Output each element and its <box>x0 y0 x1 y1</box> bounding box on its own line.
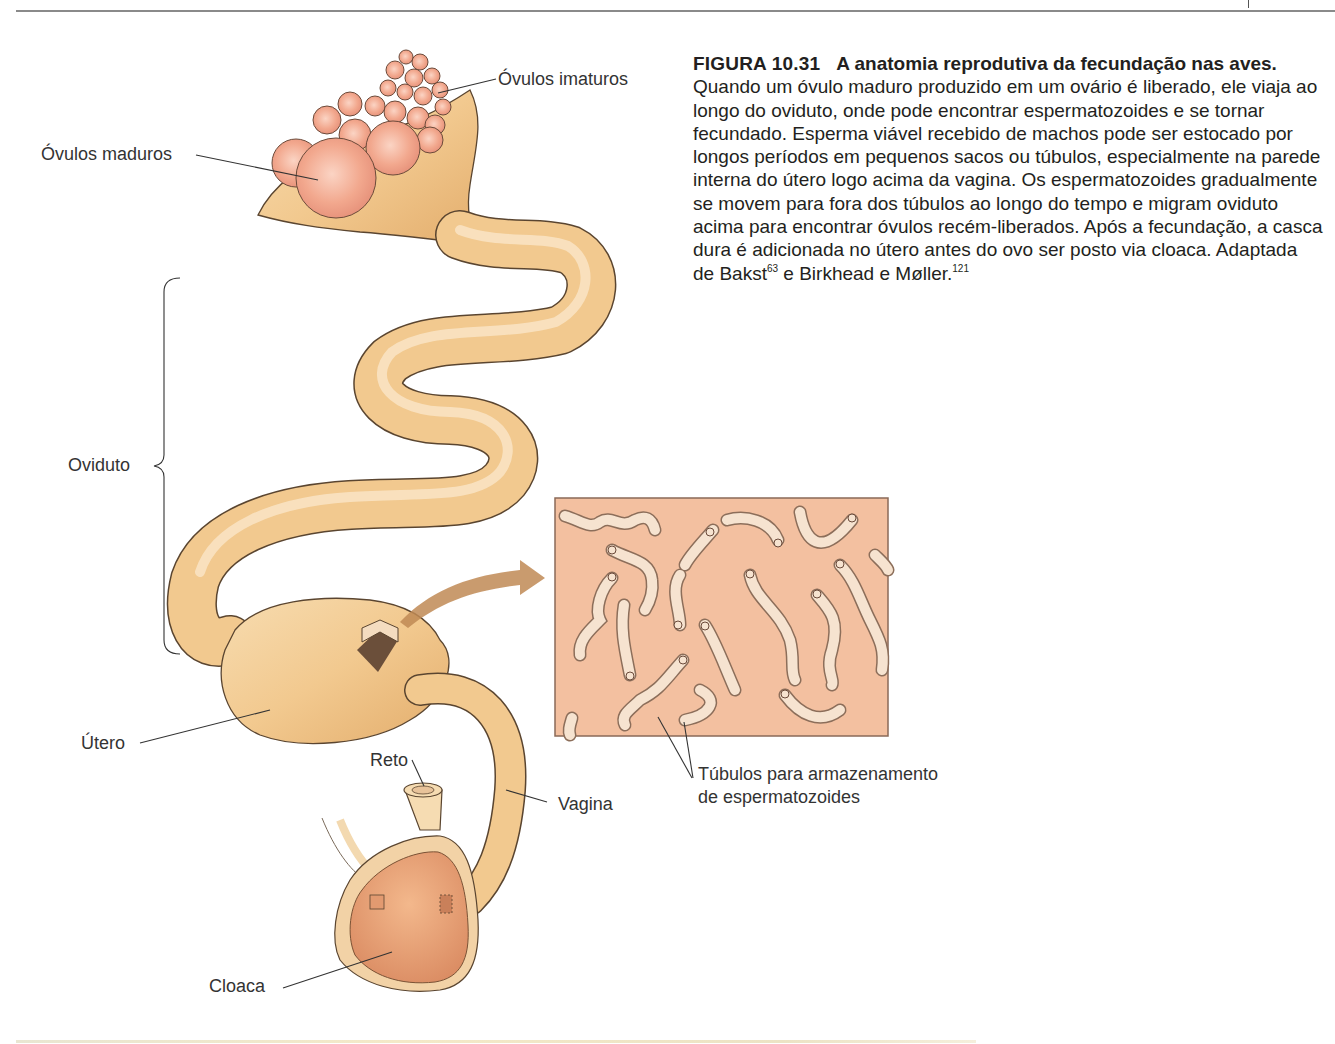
magnify-arrow <box>400 560 545 628</box>
label-vagina: Vagina <box>558 794 613 815</box>
label-utero: Útero <box>81 733 125 754</box>
label-oviduto: Oviduto <box>68 455 130 476</box>
caption-mid: e Birkhead e Møller. <box>778 263 952 284</box>
label-ovulos-maduros: Óvulos maduros <box>41 144 172 165</box>
label-tubulos-line1: Túbulos para armazenamento <box>698 764 938 785</box>
label-ovulos-imaturos: Óvulos imaturos <box>498 69 628 90</box>
citation-ref-1: 63 <box>767 263 778 274</box>
citation-ref-2: 121 <box>952 263 969 274</box>
figure-title: A anatomia reprodutiva da fecundação nas… <box>836 53 1277 74</box>
figure-caption: FIGURA 10.31 A anatomia reprodutiva da f… <box>693 52 1323 285</box>
figure-number: FIGURA 10.31 <box>693 53 820 74</box>
page-footer-rule <box>16 1040 976 1043</box>
label-reto: Reto <box>370 750 408 771</box>
label-cloaca: Cloaca <box>209 976 265 997</box>
caption-body: Quando um óvulo maduro produzido em um o… <box>693 76 1322 283</box>
tubules-inset <box>555 498 888 736</box>
label-tubulos-line2: de espermatozoides <box>698 787 860 808</box>
